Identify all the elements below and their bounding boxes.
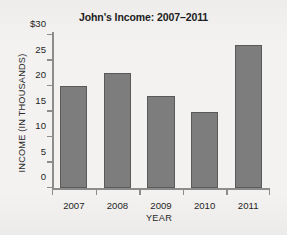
y-tick-mark: [47, 110, 52, 111]
y-tick-mark: [47, 187, 52, 188]
bar-2008: [104, 73, 131, 188]
bar-chart-figure: John's Income: 2007–2011 INCOME (IN THOU…: [0, 0, 287, 235]
x-tick-mark: [226, 190, 227, 195]
y-tick-mark: [47, 161, 52, 162]
y-tick-label: $30: [4, 18, 46, 29]
y-axis-label: INCOME (IN THOUSANDS): [17, 33, 27, 193]
y-tick-mark: [47, 34, 52, 35]
x-axis-line: [52, 188, 270, 190]
bar-2011: [235, 45, 262, 188]
y-tick-mark: [47, 136, 52, 137]
x-tick-label: 2009: [136, 200, 186, 211]
x-tick-mark: [183, 190, 184, 195]
bar-2009: [147, 96, 174, 188]
plot-area: 0510152025$30 20072008200920102011: [52, 35, 270, 190]
x-tick-label: 2010: [180, 200, 230, 211]
y-tick-mark: [47, 85, 52, 86]
y-tick-label: 0: [4, 171, 46, 182]
x-tick-mark: [139, 190, 140, 195]
y-tick-mark: [47, 59, 52, 60]
y-tick-label: 20: [4, 69, 46, 80]
bar-2007: [60, 86, 87, 188]
x-tick-label: 2008: [92, 200, 142, 211]
x-tick-mark: [269, 190, 270, 195]
bar-2010: [191, 112, 218, 189]
y-tick-label: 10: [4, 120, 46, 131]
y-tick-label: 25: [4, 44, 46, 55]
y-axis-line: [52, 32, 54, 190]
x-axis-label: YEAR: [48, 213, 270, 223]
x-tick-mark: [96, 190, 97, 195]
x-tick-label: 2007: [49, 200, 99, 211]
x-tick-mark: [52, 190, 53, 195]
y-tick-label: 15: [4, 95, 46, 106]
y-tick-label: 5: [4, 146, 46, 157]
x-tick-label: 2011: [223, 200, 273, 211]
